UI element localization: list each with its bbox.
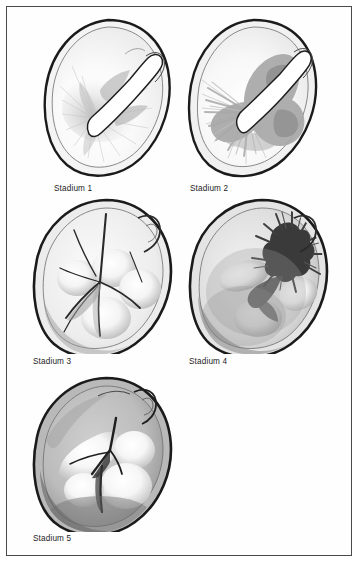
caption-stadium-4: Stadium 4 — [189, 357, 227, 366]
caption-stadium-3: Stadium 3 — [33, 357, 71, 366]
figure-stadium-4 — [186, 196, 336, 354]
lobe — [119, 269, 161, 309]
caption-stadium-2: Stadium 2 — [190, 184, 228, 193]
illustration-plate: Stadium 1 — [0, 0, 362, 568]
lobe — [113, 431, 155, 469]
figure-stadium-1 — [42, 16, 174, 181]
figure-stadium-5 — [30, 374, 182, 532]
caption-stadium-1: Stadium 1 — [54, 184, 92, 193]
caption-stadium-5: Stadium 5 — [33, 534, 71, 543]
figure-stadium-3 — [30, 196, 180, 354]
figure-stadium-2 — [186, 16, 322, 181]
